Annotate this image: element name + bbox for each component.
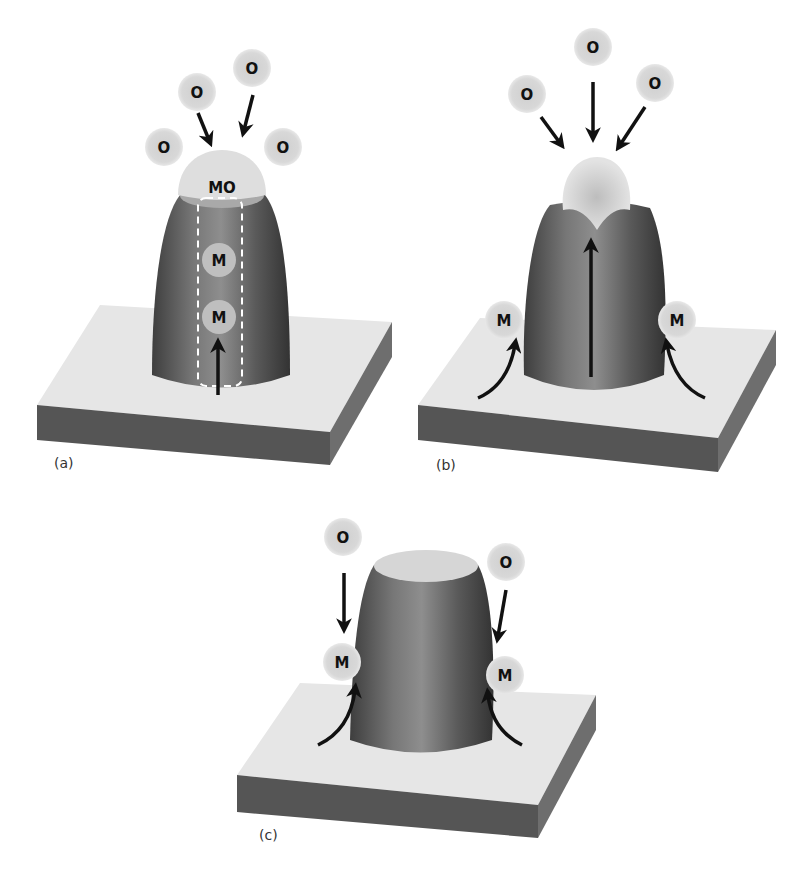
pillar [152, 184, 290, 388]
pillar [524, 201, 666, 390]
arrow-down-icon [620, 107, 645, 145]
svg-text:O: O [246, 60, 259, 78]
metal-atom: M [486, 656, 524, 694]
oxygen-atom: O [178, 73, 216, 111]
pillar [350, 550, 493, 753]
metal-atom: M [323, 643, 361, 681]
svg-text:O: O [587, 39, 600, 57]
metal-atom: M [658, 301, 696, 339]
panel-b: O O O M M (b) [418, 28, 776, 473]
oxygen-atom: O [487, 543, 525, 581]
panel-label-a: (a) [54, 455, 74, 471]
svg-text:M: M [212, 309, 227, 327]
svg-text:M: M [212, 252, 227, 270]
diagram-canvas: MO M M O O O O (a) [0, 0, 809, 882]
oxygen-atom: O [145, 128, 183, 166]
oxygen-atom: O [264, 128, 302, 166]
arrow-down-icon [541, 117, 560, 143]
oxide-cap: MO [178, 150, 266, 200]
svg-text:M: M [670, 312, 685, 330]
panel-label-c: (c) [259, 827, 278, 843]
svg-text:O: O [337, 529, 350, 547]
oxygen-atom: O [233, 49, 271, 87]
oxygen-atom: O [508, 75, 546, 113]
svg-text:M: M [335, 654, 350, 672]
panel-a: MO M M O O O O (a) [37, 49, 392, 471]
arrow-down-icon [498, 590, 506, 636]
svg-text:O: O [277, 139, 290, 157]
oxygen-atom: O [324, 518, 362, 556]
metal-atom: M [202, 243, 236, 277]
panel-c: O O M M (c) [237, 518, 596, 843]
svg-text:M: M [498, 667, 513, 685]
oxide-cap-label: MO [208, 179, 236, 197]
oxygen-atom: O [636, 64, 674, 102]
svg-text:O: O [191, 84, 204, 102]
svg-text:O: O [649, 75, 662, 93]
svg-text:O: O [158, 139, 171, 157]
arrow-down-icon [244, 95, 253, 130]
svg-text:M: M [497, 312, 512, 330]
metal-atom: M [485, 301, 523, 339]
oxygen-atom: O [574, 28, 612, 66]
arrow-down-icon [198, 113, 209, 140]
svg-text:O: O [500, 554, 513, 572]
panel-label-b: (b) [436, 457, 456, 473]
metal-atom: M [202, 300, 236, 334]
svg-text:O: O [521, 86, 534, 104]
